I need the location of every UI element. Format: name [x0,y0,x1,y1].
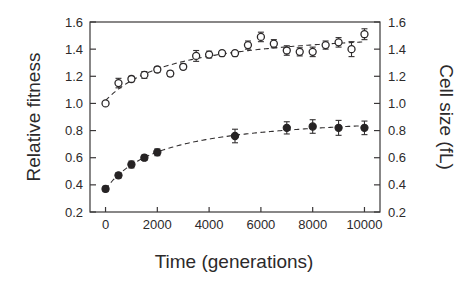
y-axis-left-tick-labels: 0.20.40.60.81.01.21.41.6 [65,15,83,220]
y-tick-label-right: 1.2 [388,69,406,84]
series-cell-size [102,120,368,193]
data-point-open [257,33,264,40]
x-tick-label: 10000 [346,217,382,232]
data-point-filled [283,124,290,131]
data-point-filled [309,123,316,130]
data-point-filled [231,132,238,139]
data-point-open [309,48,316,55]
data-point-filled [361,124,368,131]
x-tick-label: 2000 [143,217,172,232]
data-point-open [322,42,329,49]
series-relative-fitness [102,29,368,107]
y-tick-label-left: 0.8 [65,123,83,138]
x-axis-title: Time (generations) [155,251,314,272]
data-point-open [348,46,355,53]
data-point-open [206,51,213,58]
y-tick-label-left: 0.4 [65,177,83,192]
y-axis-left-ticks [90,22,96,212]
y-tick-label-left: 0.2 [65,205,83,220]
y-tick-label-left: 1.4 [65,42,83,57]
y-tick-label-left: 1.2 [65,69,83,84]
data-point-open [361,31,368,38]
x-axis-tick-labels: 0200040006000800010000 [102,217,383,232]
data-point-open [115,80,122,87]
y-axis-right-tick-labels: 0.20.40.60.81.01.21.41.6 [388,15,406,220]
y-tick-label-right: 0.6 [388,150,406,165]
x-axis-ticks [106,207,365,212]
y-tick-label-right: 1.6 [388,15,406,30]
data-point-filled [335,124,342,131]
y-axis-left-title: Relative fitness [23,53,44,182]
data-point-open [296,48,303,55]
x-tick-label: 4000 [195,217,224,232]
data-point-open [141,71,148,78]
figure-container: 0200040006000800010000 0.20.40.60.81.01.… [0,0,468,287]
data-point-open [283,47,290,54]
x-tick-label: 0 [102,217,109,232]
data-point-open [167,70,174,77]
data-point-filled [128,161,135,168]
data-point-filled [115,172,122,179]
y-tick-label-right: 0.8 [388,123,406,138]
y-tick-label-left: 1.0 [65,96,83,111]
y-axis-right-title: Cell size (fL) [436,64,457,170]
y-tick-label-left: 1.6 [65,15,83,30]
data-point-filled [102,185,109,192]
y-axis-right-ticks [374,22,380,212]
data-point-open [193,52,200,59]
data-point-filled [154,149,161,156]
data-point-open [335,39,342,46]
chart-canvas: 0200040006000800010000 0.20.40.60.81.01.… [0,0,468,287]
y-tick-label-right: 0.2 [388,205,406,220]
y-tick-label-right: 1.0 [388,96,406,111]
data-point-open [102,100,109,107]
x-tick-label: 6000 [246,217,275,232]
data-point-open [180,63,187,70]
data-point-open [154,66,161,73]
data-point-filled [141,154,148,161]
y-tick-label-right: 0.4 [388,177,406,192]
data-point-open [219,50,226,57]
data-point-open [232,50,239,57]
data-point-open [128,76,135,83]
data-point-open [244,42,251,49]
y-tick-label-right: 1.4 [388,42,406,57]
data-point-open [270,40,277,47]
y-tick-label-left: 0.6 [65,150,83,165]
x-tick-label: 8000 [298,217,327,232]
